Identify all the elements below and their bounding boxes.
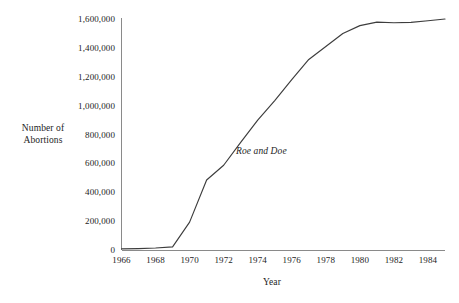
plot-area [0, 0, 459, 303]
chart-figure: Number ofAbortions Year 0200,000400,0006… [0, 0, 459, 303]
axes [122, 18, 446, 250]
data-line-number-of-abortions [122, 19, 446, 249]
annotation-roe-and-doe: Roe and Doe [236, 146, 287, 156]
